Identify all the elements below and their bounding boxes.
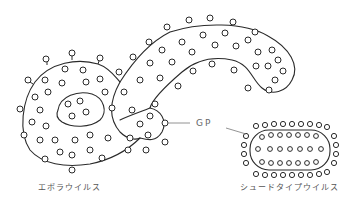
pseudotype-virus-particle xyxy=(241,121,338,177)
pseudotype-virus-label: シュードタイプウイルス xyxy=(240,181,339,192)
ebola-virus-label: エボラウイルス xyxy=(38,181,101,192)
gp-leader-pseudotype xyxy=(226,128,246,134)
ebola-virus-particle xyxy=(23,25,295,166)
gp-label: GP xyxy=(196,118,212,128)
virus-diagram xyxy=(0,0,350,203)
